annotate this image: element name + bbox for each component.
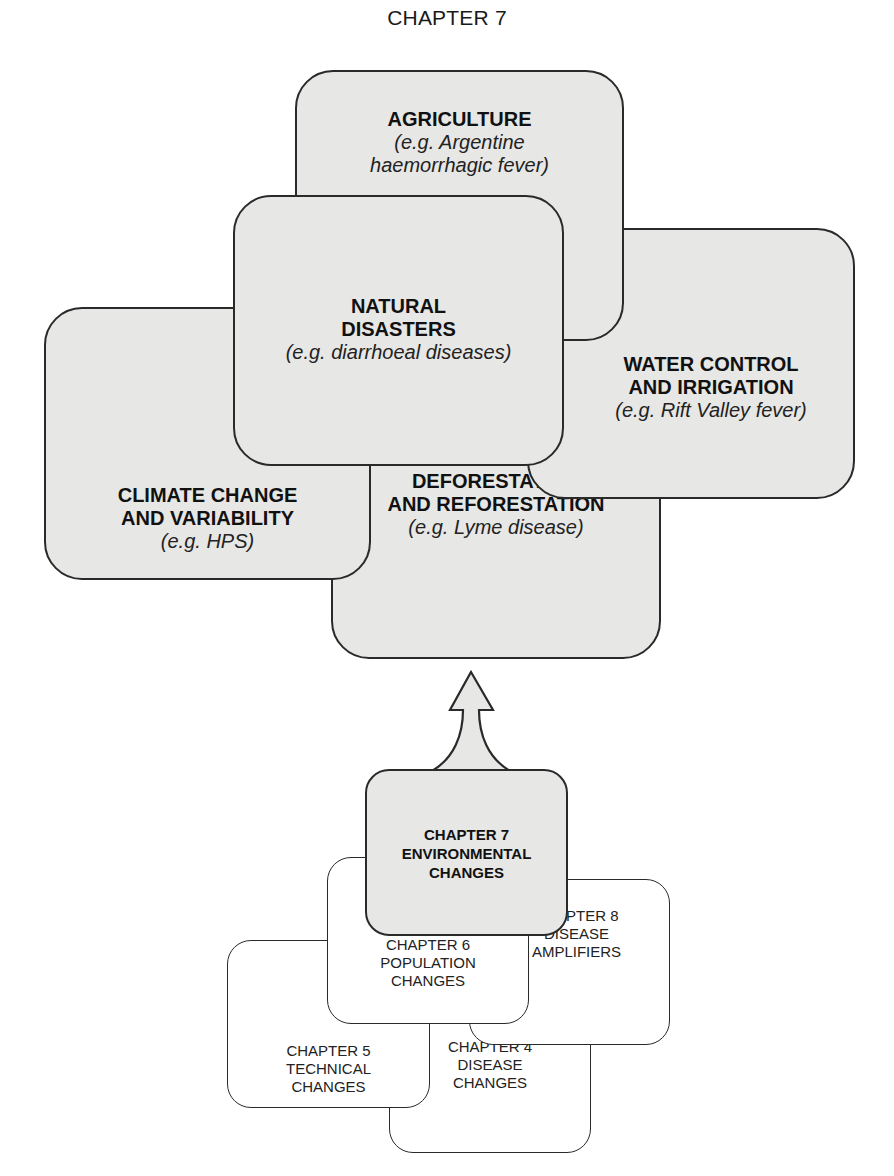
water-example: (e.g. Rift Valley fever)	[615, 399, 807, 422]
ch7-line-1: CHAPTER 7	[424, 825, 509, 844]
ch4-line-3: CHANGES	[453, 1074, 527, 1092]
natural-heading-2: DISASTERS	[341, 318, 455, 341]
agriculture-example-2: haemorrhagic fever)	[370, 154, 549, 177]
ch6-line-1: CHAPTER 6	[386, 936, 470, 954]
ch5-line-3: CHANGES	[291, 1078, 365, 1096]
agriculture-heading: AGRICULTURE	[387, 108, 531, 131]
ch6-line-2: POPULATION	[380, 954, 476, 972]
water-heading-1: WATER CONTROL	[623, 353, 798, 376]
climate-example: (e.g. HPS)	[161, 530, 254, 553]
box-chapter-7: CHAPTER 7 ENVIRONMENTAL CHANGES	[365, 769, 568, 936]
deforestation-example: (e.g. Lyme disease)	[408, 516, 583, 539]
climate-heading-2: AND VARIABILITY	[121, 507, 294, 530]
ch5-line-1: CHAPTER 5	[286, 1042, 370, 1060]
diagram-title: CHAPTER 7	[0, 6, 894, 30]
natural-example: (e.g. diarrhoeal diseases)	[286, 341, 512, 364]
ch8-line-3: AMPLIFIERS	[532, 943, 621, 961]
box-natural-disasters: NATURAL DISASTERS (e.g. diarrhoeal disea…	[233, 195, 564, 466]
ch6-line-3: CHANGES	[391, 972, 465, 990]
ch7-line-3: CHANGES	[429, 863, 504, 882]
ch7-line-2: ENVIRONMENTAL	[402, 844, 532, 863]
natural-heading-1: NATURAL	[351, 295, 446, 318]
agriculture-example-1: (e.g. Argentine	[394, 131, 524, 154]
ch4-line-2: DISEASE	[457, 1056, 522, 1074]
climate-heading-1: CLIMATE CHANGE	[118, 484, 298, 507]
water-heading-2: AND IRRIGATION	[628, 376, 793, 399]
ch5-line-2: TECHNICAL	[286, 1060, 371, 1078]
